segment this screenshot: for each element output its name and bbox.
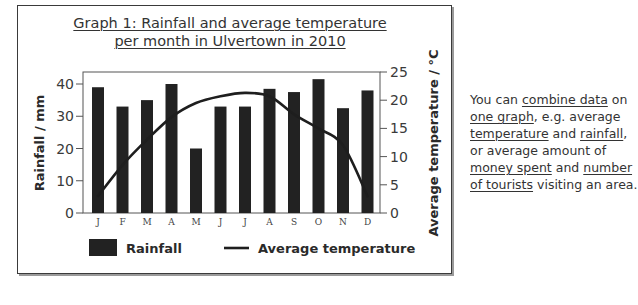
left-axis-label: Rainfall / mm — [32, 95, 47, 192]
rainfall-bar — [239, 107, 251, 213]
legend-rainfall-label: Rainfall — [126, 241, 182, 256]
rainfall-bar — [141, 100, 153, 213]
month-label: A — [167, 217, 175, 227]
month-label: N — [339, 217, 347, 227]
month-labels: JFMAMJJASOND — [95, 217, 371, 227]
right-tick-label: 20 — [390, 92, 408, 108]
underlined-term: temperature — [470, 126, 549, 141]
text-span: on — [608, 92, 628, 107]
left-tick-label: 30 — [56, 108, 74, 124]
left-tick-label: 40 — [56, 76, 74, 92]
right-tick-label: 0 — [390, 205, 399, 221]
rainfall-bar — [264, 89, 276, 213]
explanatory-paragraph: You can combine data on one graph, e.g. … — [470, 91, 638, 193]
legend: Rainfall Average temperature — [89, 239, 415, 256]
month-label: J — [218, 217, 223, 227]
right-axis-label: Average temperature / °C — [426, 49, 441, 236]
underlined-term: one graph — [470, 109, 534, 124]
left-tick-label: 0 — [65, 205, 74, 221]
left-axis-ticks: 010203040 — [56, 76, 83, 221]
month-label: J — [95, 217, 100, 227]
underlined-term: money spent — [470, 160, 552, 175]
text-span: visiting an area. — [533, 177, 637, 192]
right-tick-label: 15 — [390, 120, 408, 136]
month-label: D — [364, 217, 371, 227]
month-label: J — [242, 217, 247, 227]
left-tick-label: 10 — [56, 173, 74, 189]
month-label: M — [142, 217, 151, 227]
text-span: and — [549, 126, 580, 141]
rainfall-bar — [337, 108, 349, 213]
month-label: O — [315, 217, 322, 227]
rainfall-bar — [190, 149, 202, 214]
text-span: , e.g. average — [534, 109, 621, 124]
underlined-term: rainfall — [580, 126, 623, 141]
month-label: F — [119, 217, 125, 227]
month-label: S — [291, 217, 297, 227]
right-tick-label: 10 — [390, 149, 408, 165]
right-axis-ticks: 0510152025 — [380, 64, 408, 221]
text-span: and — [552, 160, 583, 175]
text-span: You can — [470, 92, 522, 107]
rainfall-bar — [166, 84, 178, 213]
rainfall-bar — [215, 107, 227, 213]
month-label: M — [191, 217, 200, 227]
left-tick-label: 20 — [56, 141, 74, 157]
legend-rainfall-swatch — [89, 239, 117, 256]
right-tick-label: 25 — [390, 64, 408, 80]
month-label: A — [265, 217, 273, 227]
legend-temperature-label: Average temperature — [258, 241, 415, 256]
underlined-term: combine data — [522, 92, 608, 107]
right-tick-label: 5 — [390, 177, 399, 193]
rainfall-bar — [313, 79, 325, 213]
